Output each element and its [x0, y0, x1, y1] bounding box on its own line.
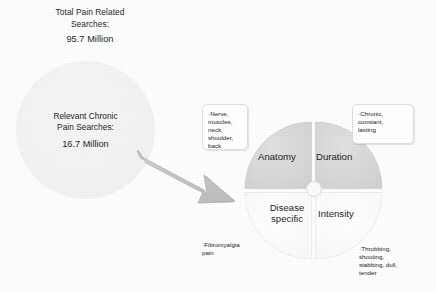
callout-intensity-line-1: Throbbing,	[361, 245, 391, 252]
relevant-amount: 16.7 Million	[25, 139, 146, 150]
callout-anatomy-line-5: back	[208, 142, 221, 149]
diagram-canvas: Total Pain Related Searches: 95.7 Millio…	[0, 0, 436, 292]
disease-label-line-2: specific	[271, 213, 303, 224]
callout-disease-specific: ·Fibromyalgia pain	[197, 236, 259, 260]
quadrant-label-duration: Duration	[316, 152, 352, 162]
block-arrow-icon	[134, 145, 244, 207]
callout-intensity-line-3: stabbing, dull,	[359, 261, 397, 268]
headline-line-2: Searches:	[71, 19, 109, 29]
quadrant-label-disease-specific: Disease specific	[262, 203, 312, 224]
callout-intensity-line-4: tender	[359, 269, 377, 276]
callout-duration-line-3: lasting	[358, 126, 376, 133]
headline-amount: 95.7 Million	[30, 34, 150, 46]
callout-intensity-line-2: shooting,	[359, 253, 384, 260]
headline-line-1: Total Pain Related	[56, 7, 125, 17]
callout-intensity: ·Throbbing, shooting, stabbing, dull, te…	[354, 240, 420, 274]
relevant-line-2: Pain Searches:	[57, 122, 114, 132]
relevant-searches-label: Relevant Chronic Pain Searches: 16.7 Mil…	[25, 111, 146, 150]
callout-disease-line-2: pain	[202, 249, 214, 256]
callout-anatomy-line-3: neck,	[208, 126, 223, 133]
disease-label-line-1: Disease	[270, 202, 305, 213]
flow-arrow	[134, 145, 244, 207]
callout-anatomy-line-1: Nerve,	[210, 110, 228, 117]
callout-anatomy: ·Nerve, muscles, neck, shoulder, back	[202, 104, 248, 150]
headline-total-searches: Total Pain Related Searches: 95.7 Millio…	[30, 7, 150, 46]
callout-anatomy-line-4: shoulder,	[208, 134, 233, 141]
callout-duration-line-2: constant,	[358, 118, 383, 125]
callout-duration-line-1: Chronic,	[360, 110, 383, 117]
callout-disease-line-1: Fibromyalgia	[204, 241, 239, 248]
quadrant-label-intensity: Intensity	[318, 209, 354, 219]
callout-anatomy-line-2: muscles,	[208, 118, 232, 125]
callout-duration: ·Chronic, constant, lasting	[352, 104, 414, 144]
wheel-center-hub	[306, 181, 322, 197]
relevant-line-1: Relevant Chronic	[53, 111, 117, 121]
quadrant-label-anatomy: Anatomy	[258, 152, 296, 162]
